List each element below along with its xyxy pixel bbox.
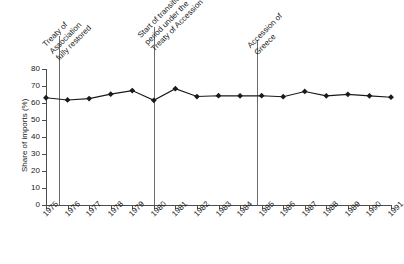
data-point-marker	[345, 91, 351, 97]
data-point-marker	[302, 89, 308, 95]
data-point-marker	[151, 97, 157, 103]
data-point-marker	[280, 94, 286, 100]
data-point-marker	[129, 88, 135, 94]
data-point-marker	[108, 91, 114, 97]
data-point-marker	[259, 93, 265, 99]
data-point-marker	[388, 94, 394, 100]
data-point-marker	[216, 93, 222, 99]
data-point-marker	[172, 86, 178, 92]
data-point-marker	[237, 93, 243, 99]
data-series	[0, 0, 404, 264]
data-point-marker	[194, 94, 200, 100]
chart-container: Share of imports (%) 01020304050607080 1…	[0, 0, 404, 264]
data-point-marker	[367, 93, 373, 99]
data-point-marker	[323, 93, 329, 99]
data-point-marker	[86, 96, 92, 102]
data-point-marker	[65, 97, 71, 103]
data-point-marker	[43, 95, 49, 101]
